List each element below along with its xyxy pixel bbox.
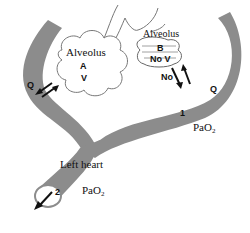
point-2-label: 2	[55, 188, 60, 197]
pao2-right-base: PaO	[193, 121, 212, 133]
alveolus-b-ventilation: No V	[150, 55, 171, 64]
no-exchange-arrow-down	[172, 68, 180, 85]
alveolus-b-title: Alveolus	[143, 29, 179, 39]
diagram-graphics	[0, 0, 250, 233]
alveolus-a-ventilation: V	[81, 74, 87, 83]
alveolus-a-letter: A	[80, 62, 87, 71]
pao2-bottom-sub: 2	[101, 190, 105, 198]
arrowhead-down	[176, 82, 183, 89]
left-flow-label: Q	[27, 81, 34, 90]
shunt-diagram: Alveolus A V Alveolus B No V Q Q No 1 2 …	[0, 0, 250, 233]
point-1-label: 1	[180, 109, 185, 118]
pao2-bottom-label: PaO2	[82, 185, 104, 198]
no-exchange-arrow-up	[184, 68, 190, 84]
arrowhead-up	[181, 64, 187, 71]
alveolus-a-shape	[57, 31, 127, 96]
alveolus-a-title: Alveolus	[66, 47, 106, 58]
alveolus-b-letter: B	[157, 44, 164, 53]
pao2-bottom-base: PaO	[82, 184, 101, 196]
left-heart-label: Left heart	[60, 159, 103, 170]
pao2-right-sub: 2	[212, 127, 216, 135]
pao2-right-label: PaO2	[193, 122, 215, 135]
right-flow-label: Q	[210, 85, 217, 94]
no-exchange-label: No	[161, 73, 173, 82]
